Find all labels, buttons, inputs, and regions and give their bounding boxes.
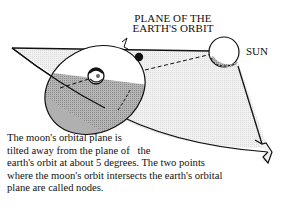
caption-line-3: earth's orbit at about 5 degrees. The tw… <box>7 157 286 170</box>
plane-of-earths-orbit-label: PLANE OF THE EARTH'S ORBIT <box>118 13 228 33</box>
sun <box>209 37 239 67</box>
caption-line-5: plane are called nodes. <box>7 182 286 195</box>
title-line-2: EARTH'S ORBIT <box>118 23 228 33</box>
sun-label: SUN <box>246 46 268 57</box>
caption-line-4: where the moon's orbit intersects the ea… <box>7 170 286 183</box>
moon <box>135 53 143 61</box>
earth <box>88 68 104 84</box>
diagram-caption: The moon's orbital plane is tilted away … <box>7 132 286 195</box>
caption-line-2: tilted away from the plane of the <box>7 145 286 158</box>
caption-line-1: The moon's orbital plane is <box>7 132 286 145</box>
